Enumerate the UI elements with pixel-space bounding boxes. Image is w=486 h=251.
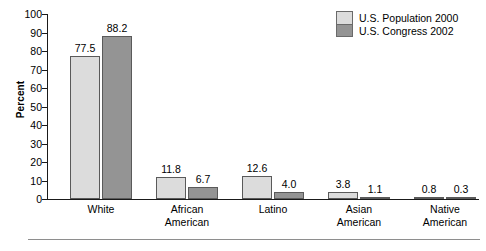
y-axis-tick-label: 80 xyxy=(16,46,42,57)
x-axis-category-label: White xyxy=(51,203,151,216)
bar-value-label: 12.6 xyxy=(238,163,276,174)
bar-chart: Percent 1009080706050403020100 77.588.21… xyxy=(0,0,486,251)
bar-0[interactable] xyxy=(242,176,272,199)
y-axis-tick-label: 0 xyxy=(16,194,42,205)
bar-value-label: 4.0 xyxy=(270,179,308,190)
bar-0[interactable] xyxy=(70,56,100,199)
legend-swatch-icon xyxy=(336,11,353,24)
bar-1[interactable] xyxy=(102,36,132,199)
category-label-line: African xyxy=(137,203,237,216)
y-axis-tick-labels: 1009080706050403020100 xyxy=(12,0,42,251)
bar-group: 0.80.3 xyxy=(414,14,476,199)
bar-value-label: 0.3 xyxy=(442,184,480,195)
category-label-line: Native xyxy=(395,203,486,216)
category-label-line: Latino xyxy=(223,203,323,216)
x-axis-category-label: Latino xyxy=(223,203,323,216)
legend: U.S. Population 2000U.S. Congress 2002 xyxy=(336,11,458,37)
y-axis-tick-label: 40 xyxy=(16,120,42,131)
bar-0[interactable] xyxy=(328,192,358,199)
bar-1[interactable] xyxy=(274,192,304,199)
plot-area: 77.588.211.86.712.64.03.81.10.80.3 xyxy=(48,14,479,199)
legend-label: U.S. Congress 2002 xyxy=(359,25,454,37)
bar-value-label: 1.1 xyxy=(356,184,394,195)
bar-0[interactable] xyxy=(414,197,444,199)
bar-0[interactable] xyxy=(156,177,186,199)
y-axis-tick-label: 50 xyxy=(16,102,42,113)
bar-value-label: 88.2 xyxy=(98,23,136,34)
category-label-line: American xyxy=(395,216,486,229)
x-axis-category-label: NativeAmerican xyxy=(395,203,486,229)
legend-item[interactable]: U.S. Population 2000 xyxy=(336,11,458,24)
bar-value-label: 77.5 xyxy=(66,43,104,54)
y-axis-tick-label: 70 xyxy=(16,65,42,76)
bar-1[interactable] xyxy=(446,197,476,199)
category-label-line: American xyxy=(137,216,237,229)
category-label-line: Asian xyxy=(309,203,409,216)
bar-1[interactable] xyxy=(360,197,390,199)
x-axis-category-label: AsianAmerican xyxy=(309,203,409,229)
category-label-line: White xyxy=(51,203,151,216)
y-axis-tick-label: 20 xyxy=(16,157,42,168)
bar-value-label: 6.7 xyxy=(184,174,222,185)
y-axis-tick-label: 30 xyxy=(16,139,42,150)
category-label-line: American xyxy=(309,216,409,229)
y-axis-tick-label: 10 xyxy=(16,176,42,187)
footer-divider xyxy=(28,239,480,240)
bar-1[interactable] xyxy=(188,187,218,199)
bar-group: 3.81.1 xyxy=(328,14,390,199)
legend-label: U.S. Population 2000 xyxy=(359,12,458,24)
legend-item[interactable]: U.S. Congress 2002 xyxy=(336,24,458,37)
bar-group: 12.64.0 xyxy=(242,14,304,199)
bar-group: 77.588.2 xyxy=(70,14,132,199)
x-axis-line xyxy=(47,199,479,200)
y-axis-tick-label: 60 xyxy=(16,83,42,94)
y-axis-tick-label: 90 xyxy=(16,28,42,39)
x-axis-category-label: AfricanAmerican xyxy=(137,203,237,229)
bar-group: 11.86.7 xyxy=(156,14,218,199)
y-axis-tick-label: 100 xyxy=(16,9,42,20)
legend-swatch-icon xyxy=(336,24,353,37)
